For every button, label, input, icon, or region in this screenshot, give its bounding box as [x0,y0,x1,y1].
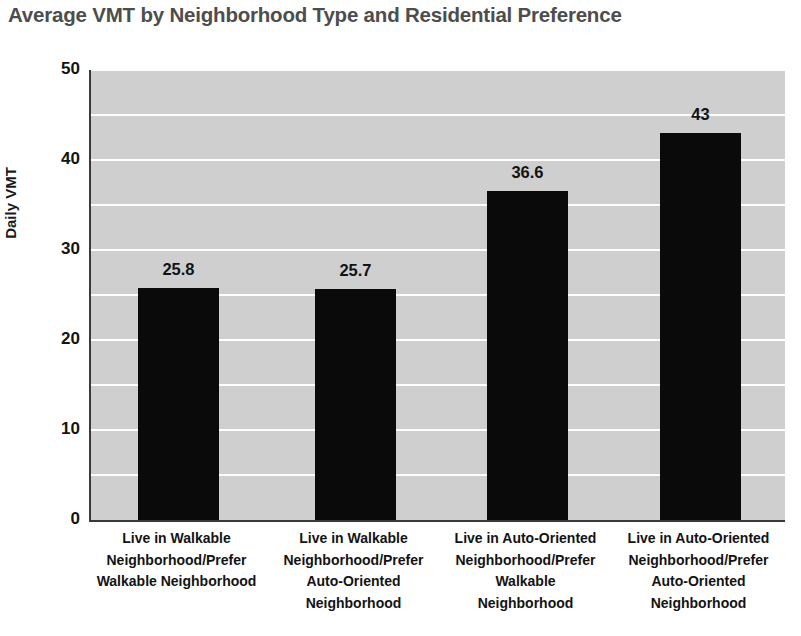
category-label-line: Live in Walkable [82,528,272,550]
category-label-line: Walkable [431,571,621,593]
category-label-line: Live in Auto-Oriented [604,528,794,550]
category-label-line: Neighborhood/Prefer [431,550,621,572]
plot-area: 25.825.736.643 [89,70,785,522]
bar[interactable] [315,289,396,520]
category-label-line: Auto-Oriented [259,571,449,593]
y-axis-tick-label: 0 [6,509,80,529]
bar-value-label: 43 [636,105,765,124]
y-axis-tick-labels: 01020304050 [0,70,80,520]
x-axis-category-label: Live in Auto-OrientedNeighborhood/Prefer… [604,528,794,614]
y-axis-tick-label: 10 [6,419,80,439]
bar-value-label: 25.7 [291,261,420,280]
y-axis-tick-label: 30 [6,239,80,259]
category-label-line: Neighborhood [431,593,621,615]
category-label-line: Live in Auto-Oriented [431,528,621,550]
x-axis-category-label: Live in WalkableNeighborhood/PreferWalka… [82,528,272,593]
bar-value-label: 25.8 [114,260,243,279]
x-axis-category-labels: Live in WalkableNeighborhood/PreferWalka… [89,528,783,636]
bar-value-label: 36.6 [463,163,592,182]
bar[interactable] [660,133,741,520]
category-label-line: Auto-Oriented [604,571,794,593]
category-label-line: Neighborhood [259,593,449,615]
category-label-line: Neighborhood/Prefer [82,550,272,572]
x-axis-category-label: Live in WalkableNeighborhood/PreferAuto-… [259,528,449,614]
gridline [91,69,785,71]
bar[interactable] [138,288,219,520]
category-label-line: Neighborhood/Prefer [259,550,449,572]
category-label-line: Walkable Neighborhood [82,571,272,593]
bar-chart: Average VMT by Neighborhood Type and Res… [0,0,801,636]
bar[interactable] [487,191,568,520]
y-axis-tick-label: 40 [6,149,80,169]
y-axis-tick-label: 50 [6,59,80,79]
category-label-line: Live in Walkable [259,528,449,550]
y-axis-tick-label: 20 [6,329,80,349]
category-label-line: Neighborhood [604,593,794,615]
x-axis-category-label: Live in Auto-OrientedNeighborhood/Prefer… [431,528,621,614]
chart-title: Average VMT by Neighborhood Type and Res… [8,3,788,27]
category-label-line: Neighborhood/Prefer [604,550,794,572]
